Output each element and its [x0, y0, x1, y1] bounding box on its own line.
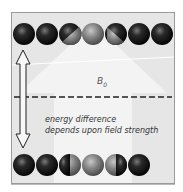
field-label-subscript: 0 — [103, 81, 107, 88]
energy-caption: energy difference depends upon field str… — [45, 114, 158, 136]
diagram-canvas — [12, 13, 174, 183]
field-label: B0 — [97, 76, 107, 88]
caption-line-1: energy difference — [45, 114, 158, 125]
diagram-frame: B0 energy difference depends upon field … — [11, 12, 175, 184]
top-sphere-row — [13, 23, 173, 45]
caption-line-2: depends upon field strength — [45, 125, 158, 136]
